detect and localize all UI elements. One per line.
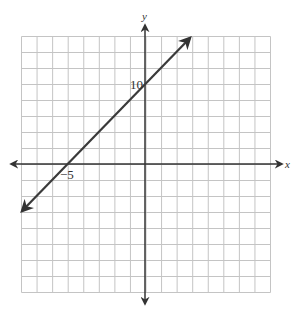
y-axis-label: y: [141, 10, 147, 22]
y-intercept-label: 10: [130, 77, 143, 92]
coordinate-plane: x y 10 −5: [0, 0, 302, 313]
x-intercept-label: −5: [60, 167, 74, 182]
x-axis-label: x: [284, 158, 290, 170]
graph-line: [22, 38, 190, 211]
